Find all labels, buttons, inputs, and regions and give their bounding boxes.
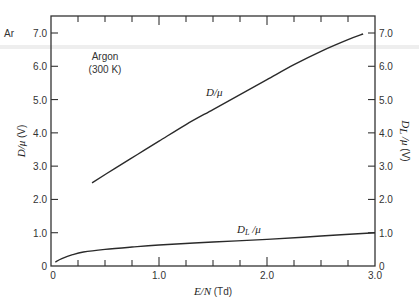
tick-label: 2.0	[260, 270, 274, 281]
y-axis-right-label: DL /μ (V)	[398, 119, 412, 161]
tick-label: 7.0	[379, 28, 393, 39]
annotation-line1: Argon	[92, 51, 119, 62]
tick-label: 0	[379, 261, 385, 272]
series-dl-over-mu-label: DL /μ	[236, 223, 261, 237]
tick-label: 4.0	[33, 128, 47, 139]
tick-label: 5.0	[379, 95, 393, 106]
series-dl-over-mu-curve	[55, 233, 375, 262]
tick-label: 0	[41, 261, 47, 272]
tick-label: 1.0	[33, 228, 47, 239]
tick-label: 0	[50, 270, 56, 281]
tick-label: 1.0	[152, 270, 166, 281]
tick-label: 7.0	[33, 28, 47, 39]
tick-label: 6.0	[379, 61, 393, 72]
corner-label: Ar	[4, 28, 15, 39]
tick-labels: 01.02.03.001.02.03.04.05.06.07.001.02.03…	[33, 28, 393, 281]
tick-label: 3.0	[379, 161, 393, 172]
tick-label: 3.0	[33, 161, 47, 172]
x-axis-label: E/N (Td)	[193, 285, 232, 297]
y-axis-left-label: D/μ (V)	[15, 125, 27, 159]
tick-label: 5.0	[33, 95, 47, 106]
tick-label: 4.0	[379, 128, 393, 139]
tick-label: 6.0	[33, 61, 47, 72]
chart: 01.02.03.001.02.03.04.05.06.07.001.02.03…	[0, 0, 419, 303]
annotation-line2: (300 K)	[89, 64, 122, 75]
tick-label: 2.0	[33, 194, 47, 205]
tick-label: 1.0	[379, 228, 393, 239]
scan-artifact	[0, 45, 419, 49]
tick-label: 2.0	[379, 194, 393, 205]
series-d-over-mu-label: D/μ	[205, 86, 223, 98]
series-d-over-mu-curve	[92, 34, 363, 183]
